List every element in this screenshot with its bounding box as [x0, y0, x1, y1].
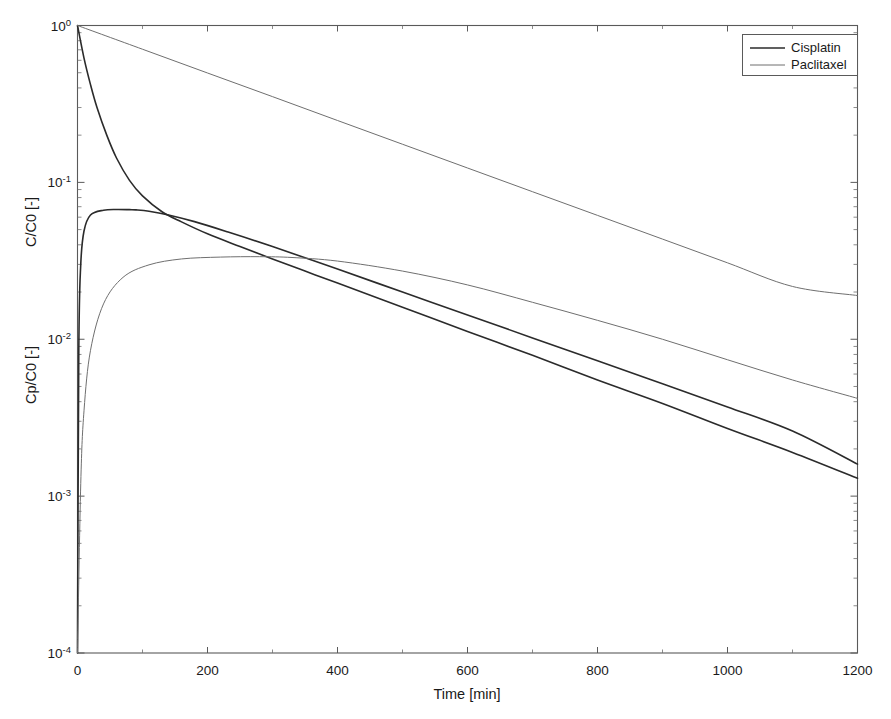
- x-tick-label: 0: [74, 663, 82, 678]
- y-axis-title-inner: C/C0 [-]: [23, 197, 39, 247]
- x-tick-label: 400: [326, 663, 349, 678]
- figure-container: 020040060080010001200 10010-110-210-310-…: [0, 0, 891, 719]
- chart-background: [0, 0, 891, 719]
- x-axis-title: Time [min]: [433, 686, 500, 702]
- log-decay-line-chart: 020040060080010001200 10010-110-210-310-…: [0, 0, 891, 719]
- legend[interactable]: Cisplatin Paclitaxel: [743, 35, 858, 76]
- x-tick-label: 1000: [712, 663, 742, 678]
- x-tick-label: 200: [196, 663, 219, 678]
- x-tick-label: 800: [586, 663, 609, 678]
- x-tick-label: 1200: [842, 663, 872, 678]
- legend-label-paclitaxel: Paclitaxel: [791, 57, 847, 72]
- x-tick-label: 600: [456, 663, 479, 678]
- y-axis-title-outer: Cp/C0 [-]: [23, 346, 39, 404]
- legend-label-cisplatin: Cisplatin: [791, 40, 841, 55]
